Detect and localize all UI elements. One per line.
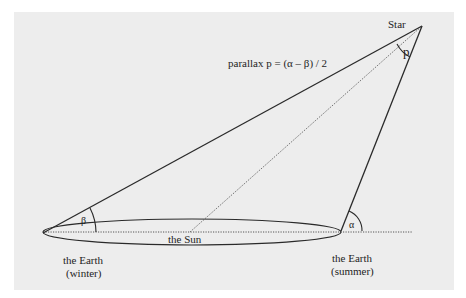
parallax-formula: parallax p = (α – β) / 2 xyxy=(228,57,327,70)
angle-beta-arc xyxy=(90,208,96,232)
parallax-diagram: Star parallax p = (α – β) / 2 p β α the … xyxy=(0,0,466,298)
earth-winter-label-line1: the Earth xyxy=(63,254,104,266)
angle-beta-label: β xyxy=(81,215,86,226)
angle-alpha-label: α xyxy=(349,219,355,230)
earth-winter-label-line2: (winter) xyxy=(66,267,102,280)
earth-summer-label-line1: the Earth xyxy=(332,252,373,264)
earth-summer-label-line2: (summer) xyxy=(331,265,374,278)
angle-p-label: p xyxy=(403,44,410,59)
star-label: Star xyxy=(388,18,406,30)
sun-label: the Sun xyxy=(168,233,202,245)
